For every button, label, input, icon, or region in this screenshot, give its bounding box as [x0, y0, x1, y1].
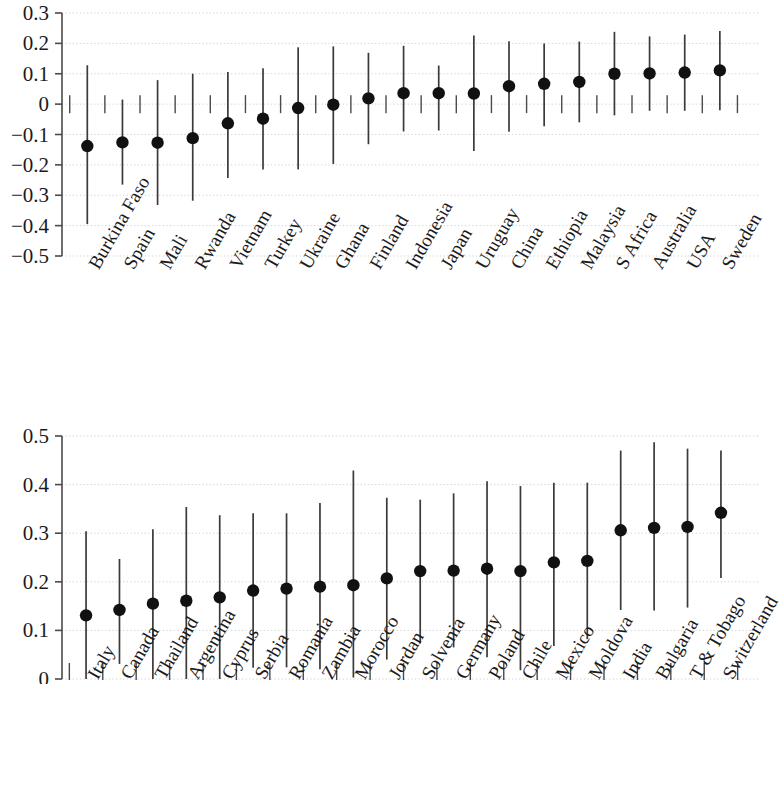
top-panel-plot-area: 0.30.20.10−0.1−0.2−0.3−0.4−0.5 [0, 0, 770, 270]
y-axis-tick-label: −0.1 [11, 123, 49, 147]
top-panel-x-axis-labels: Burkina FasoSpainMaliRwandaVietnamTurkey… [0, 262, 770, 402]
data-point-marker [414, 565, 426, 577]
data-point-marker [481, 562, 493, 574]
data-point-marker [116, 136, 128, 148]
data-point-marker [648, 522, 660, 534]
bottom-panel-x-axis-labels: ItalyCanadaThailandArgentinaCyprusSerbia… [0, 672, 770, 796]
data-point-marker [257, 113, 269, 125]
data-point-marker [222, 117, 234, 129]
data-point-marker [362, 92, 374, 104]
data-point-marker [548, 556, 560, 568]
data-point-marker [81, 140, 93, 152]
data-point-marker [327, 99, 339, 111]
bottom-panel-plot-area: 0.50.40.30.20.10 [0, 414, 770, 684]
data-point-marker [381, 572, 393, 584]
y-axis-tick-label: −0.5 [11, 244, 49, 268]
data-point-marker [679, 66, 691, 78]
data-point-marker [80, 609, 92, 621]
y-axis-tick-label: −0.3 [11, 183, 49, 207]
data-point-marker [681, 521, 693, 533]
y-axis-tick-label: 0.1 [23, 62, 49, 86]
data-point-marker [147, 597, 159, 609]
chart-panel-top: 0.30.20.10−0.1−0.2−0.3−0.4−0.5 Burkina F… [0, 0, 770, 400]
y-axis-tick-label: 0.2 [23, 570, 49, 594]
data-point-marker [151, 137, 163, 149]
data-point-marker [214, 591, 226, 603]
data-point-marker [347, 579, 359, 591]
data-point-marker [715, 507, 727, 519]
data-point-marker [503, 80, 515, 92]
y-axis-tick-label: 0.3 [23, 521, 49, 545]
data-point-marker [292, 102, 304, 114]
data-point-marker [538, 78, 550, 90]
data-point-marker [180, 595, 192, 607]
data-point-marker [573, 76, 585, 88]
y-axis-tick-label: 0.5 [23, 424, 49, 448]
data-point-marker [433, 87, 445, 99]
y-axis-tick-label: −0.4 [11, 214, 50, 238]
chart-panel-bottom: 0.50.40.30.20.10 ItalyCanadaThailandArge… [0, 414, 770, 796]
data-point-marker [113, 604, 125, 616]
data-point-marker [714, 64, 726, 76]
data-point-marker [608, 68, 620, 80]
data-point-marker [187, 132, 199, 144]
data-point-marker [447, 564, 459, 576]
data-point-marker [280, 582, 292, 594]
y-axis-tick-label: 0.1 [23, 618, 49, 642]
y-axis-tick-label: 0.4 [23, 473, 50, 497]
data-point-marker [581, 555, 593, 567]
data-point-marker [468, 87, 480, 99]
y-axis-tick-label: 0.2 [23, 31, 49, 55]
data-point-marker [247, 584, 259, 596]
y-axis-tick-label: 0 [39, 667, 50, 684]
y-axis-tick-label: 0 [39, 92, 50, 116]
data-point-marker [397, 87, 409, 99]
data-point-marker [615, 524, 627, 536]
data-point-marker [514, 565, 526, 577]
data-point-marker [314, 580, 326, 592]
y-axis-tick-label: 0.3 [23, 1, 49, 25]
data-point-marker [643, 67, 655, 79]
y-axis-tick-label: −0.2 [11, 153, 49, 177]
